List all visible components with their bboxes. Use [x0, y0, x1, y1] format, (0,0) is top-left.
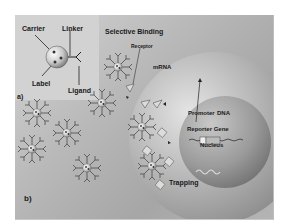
label-reporter-gene: Reporter Gene: [187, 126, 229, 132]
panel-label-b: b): [24, 195, 32, 203]
label-carrier: Carrier: [22, 25, 45, 32]
label-ligand: Ligand: [68, 87, 91, 94]
nanoparticle: [23, 99, 51, 127]
nanoparticle: [18, 135, 46, 163]
label-nucleus: Nucleus: [200, 142, 223, 148]
nanoparticle: [73, 154, 101, 182]
label-linker: Linker: [62, 25, 83, 32]
label-dna: DNA: [217, 110, 230, 116]
label-selective-binding: Selective Binding: [105, 28, 163, 35]
nanoparticle: [104, 53, 132, 81]
label-promoter: Promoter: [188, 110, 215, 116]
label-mrna: mRNA: [153, 64, 171, 70]
label-receptor: Receptor: [131, 44, 153, 49]
panel-label-a: a): [17, 93, 23, 100]
label-label: Label: [32, 80, 50, 87]
label-trapping: Trapping: [169, 179, 199, 186]
figure-panel: Carrier Linker Label Ligand a) Selective…: [15, 15, 274, 220]
nanoparticle: [53, 119, 81, 147]
